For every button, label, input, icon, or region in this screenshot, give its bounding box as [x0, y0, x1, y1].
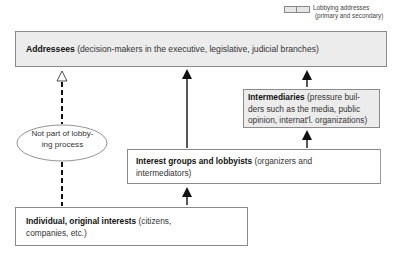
interest-groups-box: Interest groups and lobbyists (organizer… [127, 149, 381, 184]
arrow-interest-to-addressees [182, 69, 192, 148]
arrow-individual-to-interest [182, 187, 192, 205]
intermediaries-desc-1: (pressure buil- [305, 92, 360, 102]
addressees-title: Addressees [26, 44, 75, 54]
arrowhead-icon [182, 187, 192, 197]
intermediaries-desc-3: opinion, internat'l. organizations) [248, 115, 379, 127]
addressees-description: (decision-makers in the executive, legis… [77, 44, 319, 54]
intermediaries-desc-2: ders such as the media, public [248, 104, 379, 116]
not-part-label: Not part of lobby- ing process [17, 128, 108, 150]
intermediaries-box: Intermediaries (pressure buil- ders such… [243, 89, 380, 128]
intermediaries-title: Intermediaries [248, 92, 305, 102]
not-part-line-2: ing process [17, 139, 108, 150]
individual-desc-2: companies, etc.) [26, 228, 247, 240]
interest-groups-desc-1: (organizers and [252, 156, 312, 166]
individual-desc-1: (citizens, [136, 216, 171, 226]
not-part-line-1: Not part of lobby- [17, 128, 108, 139]
arrowhead-icon [302, 130, 312, 140]
arrowhead-icon [182, 69, 192, 79]
arrow-interest-to-intermediaries [302, 130, 312, 148]
addressees-box: Addressees (decision-makers in the execu… [15, 31, 387, 67]
arrowhead-icon [302, 70, 312, 80]
individual-title: Individual, original interests [26, 216, 136, 226]
interest-groups-title: Interest groups and lobbyists [136, 156, 252, 166]
individual-box: Individual, original interests (citizens… [15, 207, 248, 246]
open-arrowhead-icon [57, 71, 67, 81]
arrow-intermediaries-to-addressees [302, 70, 312, 87]
interest-groups-desc-2: intermediators) [136, 168, 380, 180]
